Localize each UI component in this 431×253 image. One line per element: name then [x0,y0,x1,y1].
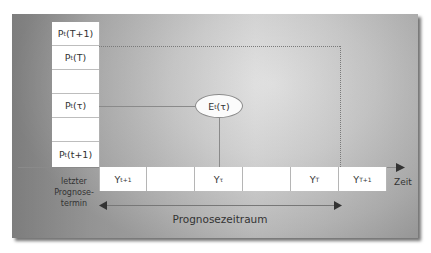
forecast-column: Pt(T+1) Pt(T) Pt(τ) Pt(t+1) [52,22,99,167]
forecast-cell-T: Pt(T) [52,46,99,70]
timeline-box-Y-T-plus-1: YT+1 [339,167,387,191]
time-axis-label: Zeit [394,177,412,187]
dotted-connector-horizontal [99,46,340,47]
time-axis-arrowhead-icon [396,163,406,172]
timeline-box-Y-t-plus-1: Yt+1 [99,167,147,191]
forecast-horizon-label: Prognosezeitraum [160,213,280,225]
arrow-right-icon [334,201,342,210]
timeline-box-empty [243,167,291,191]
forecast-cell-T-plus-1: Pt(T+1) [52,22,99,46]
estimate-to-axis-line [219,118,220,167]
forecast-cell-t-plus-1: Pt(t+1) [52,142,99,167]
forecast-horizon-line [104,205,336,206]
forecast-cell-empty [52,70,99,94]
arrow-left-icon [99,201,107,210]
tau-connector-line [99,106,195,107]
estimate-node: Et(τ) [195,94,243,118]
last-forecast-date-label: letzter Prognose- termin [48,176,100,209]
timeline-box-Y-T: YT [291,167,339,191]
forecast-cell-tau: Pt(τ) [52,94,99,118]
forecast-cell-empty [52,118,99,142]
timeline-box-Y-tau: Yτ [195,167,243,191]
dotted-connector-vertical [340,46,341,167]
timeline-box-empty [147,167,195,191]
forecast-column-right-border [99,22,100,167]
